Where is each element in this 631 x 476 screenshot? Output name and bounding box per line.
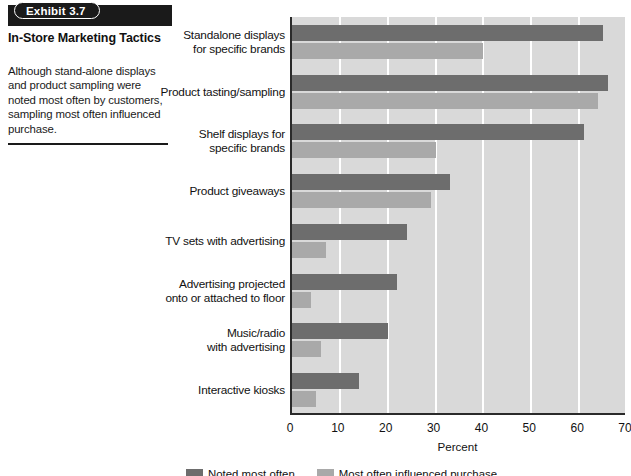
legend-item[interactable]: Noted most often — [186, 468, 295, 476]
category-label-line: Shelf displays for — [152, 127, 285, 141]
category-label-line: Interactive kiosks — [152, 383, 285, 397]
x-tick-label-30: 30 — [427, 421, 440, 435]
bar — [292, 75, 608, 91]
bar — [292, 93, 598, 109]
category-label-line: with advertising — [152, 340, 285, 354]
category-label-line: for specific brands — [152, 42, 285, 56]
x-tick-label-60: 60 — [570, 421, 583, 435]
x-tick-label-10: 10 — [331, 421, 344, 435]
bar-chart: Standalone displaysfor specific brandsPr… — [0, 0, 631, 476]
legend-label: Most often influenced purchase — [339, 468, 497, 476]
bar-group — [292, 124, 625, 158]
x-tick-label-70: 70 — [618, 421, 631, 435]
bar — [292, 373, 359, 389]
bar — [292, 43, 483, 59]
bar — [292, 192, 431, 208]
bar — [292, 341, 321, 357]
x-tick-label-0: 0 — [287, 421, 294, 435]
bar-group — [292, 25, 625, 59]
category-label-line: onto or attached to floor — [152, 291, 285, 305]
x-tick-label-50: 50 — [523, 421, 536, 435]
plot-area — [290, 17, 625, 415]
bar — [292, 142, 436, 158]
bar-group — [292, 174, 625, 208]
bar — [292, 292, 311, 308]
category-label-line: Product tasting/sampling — [152, 85, 285, 99]
bar-group — [292, 224, 625, 258]
category-label-line: Standalone displays — [152, 28, 285, 42]
category-label-line: specific brands — [152, 141, 285, 155]
legend-swatch-icon — [317, 469, 334, 476]
bar — [292, 391, 316, 407]
bar-group — [292, 323, 625, 357]
legend-item[interactable]: Most often influenced purchase — [317, 468, 497, 476]
bar — [292, 25, 603, 41]
gridline-70 — [626, 17, 628, 413]
category-label: Advertising projectedonto or attached to… — [152, 277, 285, 305]
category-label: Music/radiowith advertising — [152, 326, 285, 354]
category-axis-labels: Standalone displaysfor specific brandsPr… — [152, 17, 285, 415]
category-label: TV sets with advertising — [152, 234, 285, 248]
bar — [292, 323, 388, 339]
category-label-line: Music/radio — [152, 326, 285, 340]
bar-group — [292, 373, 625, 407]
category-label: Shelf displays forspecific brands — [152, 127, 285, 155]
legend-swatch-icon — [186, 469, 203, 476]
bar-group — [292, 274, 625, 308]
x-tick-label-40: 40 — [475, 421, 488, 435]
exhibit-page: Exhibit 3.7 In-Store Marketing Tactics A… — [0, 0, 631, 476]
bar — [292, 224, 407, 240]
bar — [292, 124, 584, 140]
category-label-line: TV sets with advertising — [152, 234, 285, 248]
x-tick-label-20: 20 — [379, 421, 392, 435]
category-label-line: Advertising projected — [152, 277, 285, 291]
category-label-line: Product giveaways — [152, 184, 285, 198]
legend-label: Noted most often — [208, 468, 295, 476]
x-axis-tick-labels: 010203040506070 — [290, 421, 625, 437]
bar — [292, 242, 326, 258]
category-label: Interactive kiosks — [152, 383, 285, 397]
category-label: Product giveaways — [152, 184, 285, 198]
chart-legend: Noted most oftenMost often influenced pu… — [186, 468, 497, 476]
bar-group — [292, 75, 625, 109]
x-axis-title: Percent — [290, 440, 625, 453]
bar — [292, 174, 450, 190]
bar — [292, 274, 397, 290]
category-label: Product tasting/sampling — [152, 85, 285, 99]
category-label: Standalone displaysfor specific brands — [152, 28, 285, 56]
